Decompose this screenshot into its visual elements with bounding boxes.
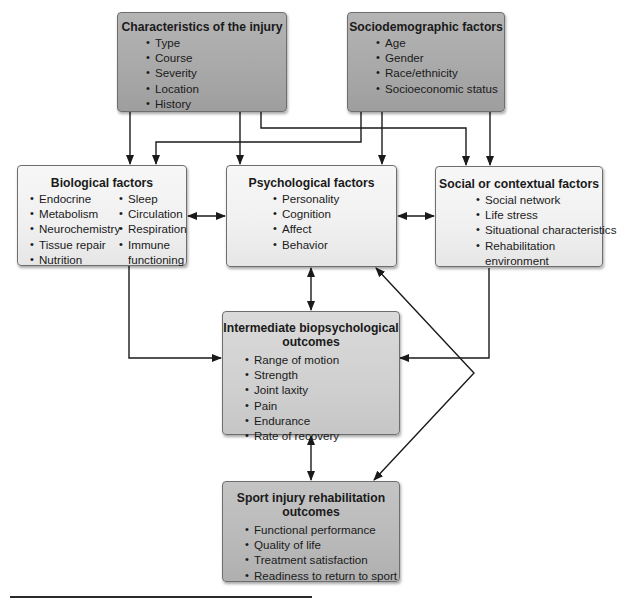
list-item: Sleep bbox=[119, 191, 187, 206]
box-injury-characteristics: Characteristics of the injury Type Cours… bbox=[117, 12, 287, 112]
list-item: Strength bbox=[245, 367, 399, 382]
list-item-continuation: environment bbox=[476, 253, 602, 268]
list-item: Pain bbox=[245, 398, 399, 413]
box-sociodemographic-factors: Sociodemographic factors Age Gender Race… bbox=[347, 12, 505, 112]
list-item: Situational characteristics bbox=[476, 222, 602, 237]
list-item: Rate of recovery bbox=[245, 428, 399, 443]
arrow-injury-to-social bbox=[261, 112, 466, 165]
box-rehabilitation-outcomes: Sport injury rehabilitation outcomes Fun… bbox=[222, 481, 400, 582]
biopsychological-model-diagram: Characteristics of the injury Type Cours… bbox=[0, 0, 620, 604]
box-title-line2: outcomes bbox=[223, 505, 399, 519]
item-list: Range of motion Strength Joint laxity Pa… bbox=[245, 352, 399, 443]
list-item: Neurochemistry bbox=[30, 221, 119, 236]
list-item: Quality of life bbox=[245, 537, 399, 552]
list-item: Location bbox=[146, 81, 286, 96]
list-item: History bbox=[146, 96, 286, 111]
box-title: Psychological factors bbox=[227, 176, 396, 190]
list-item: Rehabilitation bbox=[476, 238, 602, 253]
list-item: Race/ethnicity bbox=[376, 65, 504, 80]
item-list: Functional performance Quality of life T… bbox=[245, 522, 399, 583]
list-item: Severity bbox=[146, 65, 286, 80]
box-title: Characteristics of the injury bbox=[118, 20, 286, 34]
list-item: Endurance bbox=[245, 413, 399, 428]
list-item: Socioeconomic status bbox=[376, 81, 504, 96]
item-list-left: Endocrine Metabolism Neurochemistry Tiss… bbox=[30, 191, 119, 267]
list-item: Functional performance bbox=[245, 522, 399, 537]
item-list: Age Gender Race/ethnicity Socioeconomic … bbox=[376, 35, 504, 96]
list-item: Metabolism bbox=[30, 206, 119, 221]
box-title: Social or contextual factors bbox=[436, 177, 602, 191]
box-psychological-factors: Psychological factors Personality Cognit… bbox=[226, 165, 397, 267]
box-title-line1: Sport injury rehabilitation bbox=[223, 491, 399, 505]
list-item: Treatment satisfaction bbox=[245, 552, 399, 567]
list-item: Endocrine bbox=[30, 191, 119, 206]
list-item: Life stress bbox=[476, 207, 602, 222]
list-item: Circulation bbox=[119, 206, 187, 221]
list-item: Type bbox=[146, 35, 286, 50]
list-item: Personality bbox=[273, 191, 396, 206]
box-title-line1: Intermediate biopsychological bbox=[223, 321, 399, 335]
list-item: Joint laxity bbox=[245, 382, 399, 397]
list-item: Course bbox=[146, 50, 286, 65]
box-title: Biological factors bbox=[18, 176, 186, 190]
list-item: Tissue repair bbox=[30, 237, 119, 252]
list-item: Social network bbox=[476, 192, 602, 207]
box-biological-factors: Biological factors Endocrine Metabolism … bbox=[17, 165, 187, 266]
arrow-biological-to-intermediate bbox=[129, 266, 221, 358]
list-item-continuation: functioning bbox=[119, 252, 187, 267]
item-list: Personality Cognition Affect Behavior bbox=[273, 191, 396, 252]
box-title-line2: outcomes bbox=[223, 335, 399, 349]
footer-divider bbox=[10, 596, 312, 598]
list-item: Behavior bbox=[273, 237, 396, 252]
arrow-socio-to-biological bbox=[156, 112, 361, 164]
list-item: Immune bbox=[119, 237, 187, 252]
item-list: Social network Life stress Situational c… bbox=[476, 192, 602, 268]
list-item: Nutrition bbox=[30, 252, 119, 267]
box-intermediate-outcomes: Intermediate biopsychological outcomes R… bbox=[222, 311, 400, 435]
list-item: Readiness to return to sport bbox=[245, 568, 399, 583]
list-item: Range of motion bbox=[245, 352, 399, 367]
arrow-social-to-intermediate bbox=[400, 268, 489, 358]
box-title: Sociodemographic factors bbox=[348, 20, 504, 34]
item-columns: Endocrine Metabolism Neurochemistry Tiss… bbox=[30, 190, 186, 267]
list-item: Respiration bbox=[119, 221, 187, 236]
item-list-right: Sleep Circulation Respiration Immune fun… bbox=[119, 191, 187, 267]
list-item: Affect bbox=[273, 221, 396, 236]
list-item: Cognition bbox=[273, 206, 396, 221]
list-item: Age bbox=[376, 35, 504, 50]
box-social-contextual-factors: Social or contextual factors Social netw… bbox=[435, 166, 603, 267]
item-list: Type Course Severity Location History bbox=[146, 35, 286, 111]
list-item: Gender bbox=[376, 50, 504, 65]
